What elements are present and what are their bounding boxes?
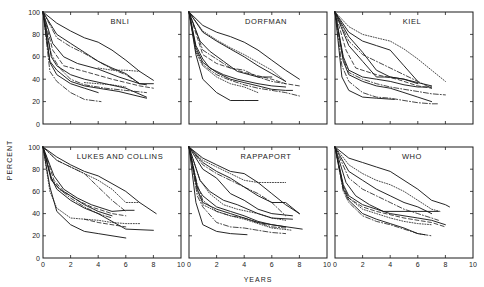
x-tick-label: 0 [41,261,45,268]
panel-bnli: 020406080100BNLI [28,9,181,128]
y-tick-label: 100 [28,144,40,151]
y-tick-label: 60 [32,53,40,60]
panel-title: WHO [402,152,422,161]
x-tick-label: 4 [96,261,100,268]
y-tick-label: 60 [32,188,40,195]
x-tick-label: 0 [187,261,191,268]
x-tick-label: 6 [270,261,274,268]
y-tick-label: 100 [28,9,40,16]
panel-kiel: KIEL [335,12,473,124]
survival-curves-figure: 020406080100BNLIDORFMANKIEL0204060801000… [0,0,484,287]
panel-title: DORFMAN [245,17,287,26]
panel-title: BNLI [110,17,129,26]
x-tick-label: 8 [297,261,301,268]
y-tick-label: 0 [36,255,40,262]
panel-rappaport: 0246810RAPPAPORT [187,147,331,268]
y-tick-label: 40 [32,210,40,217]
x-tick-label: 8 [443,261,447,268]
y-tick-label: 80 [32,166,40,173]
y-tick-label: 20 [32,98,40,105]
x-tick-label: 2 [69,261,73,268]
y-tick-label: 0 [36,121,40,128]
survival-curve-solid [43,12,147,85]
survival-curve-dashed [84,219,125,227]
x-axis-title: YEARS [244,276,273,283]
panel-title: RAPPAPORT [241,152,292,161]
survival-curve-solid [43,12,147,97]
survival-curve-solid [43,12,147,98]
y-axis-title: PERCENT [6,140,13,180]
x-tick-label: 10 [323,261,331,268]
x-tick-label: 6 [416,261,420,268]
survival-curve-dashdot [335,12,445,95]
x-tick-label: 4 [242,261,246,268]
panel-title: KIEL [403,17,422,26]
x-tick-label: 6 [124,261,128,268]
x-tick-label: 10 [177,261,185,268]
panel-who: 0246810WHO [333,147,477,268]
y-tick-label: 20 [32,232,40,239]
x-tick-label: 8 [151,261,155,268]
y-tick-label: 80 [32,31,40,38]
x-tick-label: 4 [388,261,392,268]
survival-curve-dotted [335,12,445,81]
panels-group: 020406080100BNLIDORFMANKIEL0204060801000… [28,9,477,269]
x-tick-label: 2 [215,261,219,268]
y-tick-label: 40 [32,76,40,83]
x-tick-label: 0 [333,261,337,268]
x-tick-label: 2 [361,261,365,268]
panel-title: LUKES AND COLLINS [77,152,163,161]
panel-lukes-and-collins: 0204060801000246810LUKES AND COLLINS [28,144,185,269]
x-tick-label: 10 [469,261,477,268]
panel-dorfman: DORFMAN [189,12,327,124]
survival-curve-solid [43,12,153,80]
chart-canvas: 020406080100BNLIDORFMANKIEL0204060801000… [0,0,484,287]
